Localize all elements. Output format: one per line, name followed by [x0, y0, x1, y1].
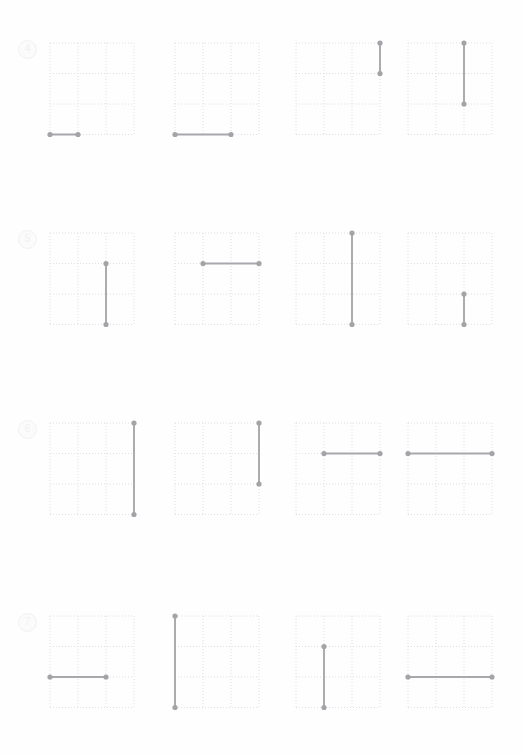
dotted-grid [400, 608, 500, 716]
grid-cell[interactable] [400, 415, 500, 523]
grid-cell[interactable] [167, 225, 267, 333]
segment-endpoint-dot[interactable] [131, 512, 136, 517]
dotted-grid [288, 415, 388, 523]
dotted-grid [42, 415, 142, 523]
segment-endpoint-dot[interactable] [461, 291, 466, 296]
dotted-grid [400, 415, 500, 523]
segment-endpoint-dot[interactable] [321, 644, 326, 649]
segment-endpoint-dot[interactable] [256, 420, 261, 425]
segment-endpoint-dot[interactable] [489, 451, 494, 456]
dotted-grid [167, 35, 267, 143]
segment-endpoint-dot[interactable] [377, 71, 382, 76]
segment-endpoint-dot[interactable] [405, 674, 410, 679]
segment-endpoint-dot[interactable] [75, 132, 80, 137]
segment-endpoint-dot[interactable] [200, 261, 205, 266]
grid-cell[interactable] [42, 35, 142, 143]
segment-endpoint-dot[interactable] [172, 613, 177, 618]
dotted-grid [400, 225, 500, 333]
segment-endpoint-dot[interactable] [461, 101, 466, 106]
segment-endpoint-dot[interactable] [321, 451, 326, 456]
grid-cell[interactable] [288, 35, 388, 143]
segment-endpoint-dot[interactable] [103, 261, 108, 266]
grid-cell[interactable] [400, 35, 500, 143]
grid-cell[interactable] [400, 225, 500, 333]
grid-cell[interactable] [288, 608, 388, 716]
segment-endpoint-dot[interactable] [377, 40, 382, 45]
grid-cell[interactable] [400, 608, 500, 716]
exercise-number-badge: 4 [18, 40, 37, 59]
segment-endpoint-dot[interactable] [103, 322, 108, 327]
grid-cell[interactable] [42, 608, 142, 716]
grid-cell[interactable] [167, 35, 267, 143]
exercise-row: 4 [0, 35, 524, 195]
segment-endpoint-dot[interactable] [103, 674, 108, 679]
segment-endpoint-dot[interactable] [256, 261, 261, 266]
grid-cell[interactable] [42, 225, 142, 333]
segment-endpoint-dot[interactable] [47, 674, 52, 679]
segment-endpoint-dot[interactable] [461, 40, 466, 45]
dotted-grid [42, 608, 142, 716]
segment-endpoint-dot[interactable] [172, 705, 177, 710]
segment-endpoint-dot[interactable] [377, 451, 382, 456]
dotted-grid [288, 608, 388, 716]
segment-endpoint-dot[interactable] [47, 132, 52, 137]
dotted-grid [167, 225, 267, 333]
exercise-number-badge: 6 [18, 420, 37, 439]
segment-endpoint-dot[interactable] [461, 322, 466, 327]
grid-cell[interactable] [167, 608, 267, 716]
segment-endpoint-dot[interactable] [321, 705, 326, 710]
segment-endpoint-dot[interactable] [172, 132, 177, 137]
grid-cell[interactable] [42, 415, 142, 523]
segment-endpoint-dot[interactable] [228, 132, 233, 137]
worksheet-page: 4567 [0, 0, 524, 755]
dotted-grid [42, 225, 142, 333]
exercise-row: 5 [0, 225, 524, 385]
segment-endpoint-dot[interactable] [256, 481, 261, 486]
segment-endpoint-dot[interactable] [405, 451, 410, 456]
dotted-grid [167, 608, 267, 716]
grid-cell[interactable] [288, 415, 388, 523]
exercise-number-badge: 7 [18, 613, 37, 632]
dotted-grid [288, 225, 388, 333]
segment-endpoint-dot[interactable] [489, 674, 494, 679]
exercise-number-badge: 5 [18, 230, 37, 249]
segment-endpoint-dot[interactable] [349, 230, 354, 235]
exercise-row: 7 [0, 608, 524, 755]
segment-endpoint-dot[interactable] [349, 322, 354, 327]
dotted-grid [288, 35, 388, 143]
exercise-row: 6 [0, 415, 524, 575]
segment-endpoint-dot[interactable] [131, 420, 136, 425]
grid-cell[interactable] [288, 225, 388, 333]
dotted-grid [42, 35, 142, 143]
dotted-grid [400, 35, 500, 143]
grid-cell[interactable] [167, 415, 267, 523]
dotted-grid [167, 415, 267, 523]
